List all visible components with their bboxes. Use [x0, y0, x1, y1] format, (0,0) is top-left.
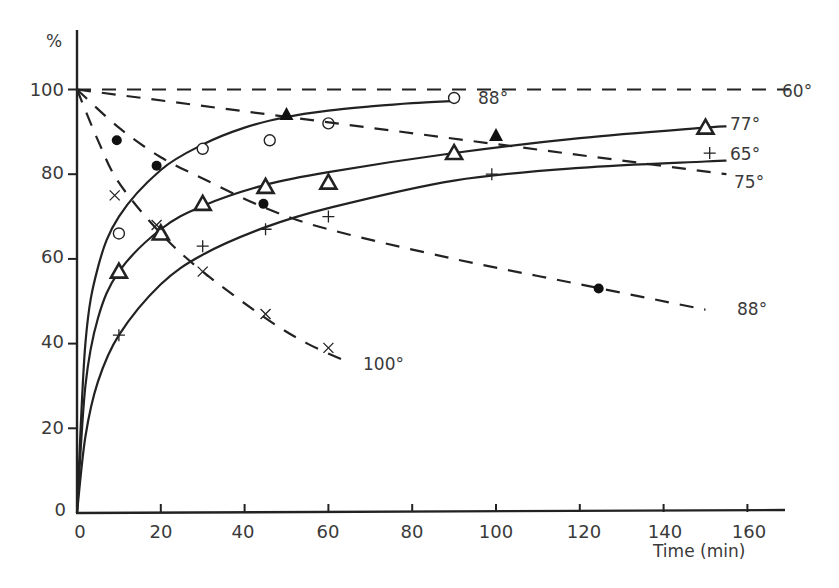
y-tick-100: 100: [30, 79, 64, 100]
curve-line: [77, 90, 349, 363]
curve-label-60: 60°: [782, 81, 812, 101]
plus-marker: [113, 329, 125, 341]
cross-marker: [198, 267, 208, 277]
curve-label-65: 65°: [730, 144, 760, 164]
open-triangle-marker: [320, 175, 336, 189]
curve-label-75: 75°: [734, 172, 764, 192]
x-tick-20: 20: [150, 521, 173, 542]
plot-area: [77, 90, 789, 514]
filled-triangle-marker: [280, 107, 294, 120]
x-tick-60: 60: [317, 521, 340, 542]
curve-label-100: 100°: [363, 354, 404, 374]
chart: % Time (min) 100 80 60 40 20 0 0 20 40 6…: [0, 0, 839, 588]
x-tick-120: 120: [567, 521, 601, 542]
x-tick-40: 40: [232, 521, 255, 542]
x-axis: [76, 510, 785, 513]
y-axis-label: %: [46, 31, 62, 51]
curve-label-88-dashed: 88°: [737, 299, 767, 319]
open-circle-marker: [449, 92, 460, 103]
x-tick-100: 100: [479, 521, 513, 542]
curve-line: [77, 101, 454, 513]
open-circle-marker: [264, 135, 275, 146]
filled-circle-marker: [112, 135, 122, 145]
cross-marker: [323, 343, 333, 353]
plus-marker: [322, 211, 334, 223]
plus-marker: [197, 240, 209, 252]
open-circle-marker: [113, 228, 124, 239]
filled-circle-marker: [258, 199, 268, 209]
series-88-: [77, 92, 460, 513]
filled-circle-marker: [152, 161, 162, 171]
series-65-: [77, 147, 726, 513]
open-circle-marker: [197, 143, 208, 154]
curve-label-77: 77°: [730, 114, 760, 134]
filled-triangle-marker: [489, 128, 503, 141]
y-tick-60: 60: [41, 246, 64, 267]
x-tick-80: 80: [401, 521, 424, 542]
plus-marker: [704, 147, 716, 159]
x-tick-160: 160: [732, 521, 766, 542]
y-tick-40: 40: [41, 331, 64, 352]
plus-marker: [486, 168, 498, 180]
curve-line: [77, 126, 726, 513]
curve-line: [77, 90, 706, 310]
series-100-: [77, 90, 349, 363]
filled-circle-marker: [594, 284, 604, 294]
series-77-: [77, 120, 726, 513]
curve-label-88-solid: 88°: [478, 88, 508, 108]
x-axis-label: Time (min): [652, 541, 745, 561]
y-tick-80: 80: [41, 162, 64, 183]
y-tick-0: 0: [55, 499, 66, 520]
x-tick-0: 0: [74, 521, 85, 542]
curve-line: [77, 161, 726, 513]
cross-marker: [110, 190, 120, 200]
series-88-dashed-: [77, 90, 706, 310]
axis-ticks: [68, 90, 747, 513]
x-tick-140: 140: [648, 521, 682, 542]
y-tick-20: 20: [41, 417, 64, 438]
